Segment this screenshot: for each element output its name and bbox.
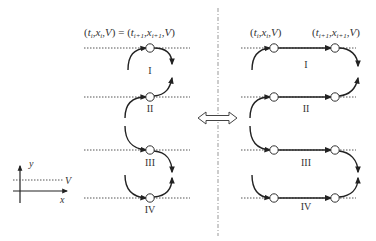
right-curves [250,48,358,198]
state-circle [146,194,154,202]
right-level-lines [241,48,356,198]
right-panel: (ti,xi,V) (ti+1,xi+1,V) [241,26,360,212]
right-start-state-label: (ti,xi,V) [250,26,282,40]
state-circle [270,44,278,52]
segment-label-IV: IV [301,201,312,212]
state-circle [331,194,339,202]
left-panel: (ti,xi,V) = (ti+1,xi+1,V) [84,26,190,215]
state-circle [270,194,278,202]
state-circle [146,44,154,52]
segment-label-IV: IV [145,204,156,215]
state-circle [146,93,154,101]
left-segment-labels: I II III IV [145,65,156,215]
left-level-lines [84,48,190,198]
state-circle [146,146,154,154]
right-segment-labels: I II III IV [301,59,312,212]
y-axis-label: y [28,158,34,169]
state-circle [331,93,339,101]
segment-label-III: III [301,157,311,168]
segment-label-III: III [145,157,155,168]
level-v-label: V [65,175,73,186]
state-circle [270,93,278,101]
left-header-label: (ti,xi,V) = (ti+1,xi+1,V) [84,26,175,40]
axes-inset: y V x [13,158,73,205]
segment-label-I: I [148,65,151,76]
segment-label-II: II [147,103,154,114]
state-circle [270,146,278,154]
state-circle [331,146,339,154]
x-axis-label: x [59,194,65,205]
state-circle [331,44,339,52]
segment-label-II: II [303,103,310,114]
trajectory-diagram: (ti,xi,V) = (ti+1,xi+1,V) [0,0,376,241]
segment-label-I: I [304,59,307,70]
right-end-state-label: (ti+1,xi+1,V) [312,26,360,40]
